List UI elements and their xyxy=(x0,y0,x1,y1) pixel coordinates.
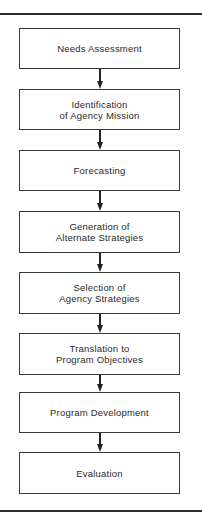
step-label: Forecasting xyxy=(74,165,126,176)
arrow-7 xyxy=(97,433,103,452)
step-label: Identification of Agency Mission xyxy=(60,99,140,121)
step-evaluation: Evaluation xyxy=(19,452,180,494)
step-selection-of-agency-strategies: Selection of Agency Strategies xyxy=(19,272,180,314)
step-identification-of-agency-mission: Identification of Agency Mission xyxy=(19,89,180,130)
step-needs-assessment: Needs Assessment xyxy=(19,28,180,69)
arrow-3 xyxy=(97,191,103,211)
step-label: Evaluation xyxy=(76,468,122,479)
step-generation-of-alternate-strategies: Generation of Alternate Strategies xyxy=(19,211,180,253)
step-program-development: Program Development xyxy=(19,392,180,433)
arrow-6 xyxy=(97,375,103,392)
step-label: Needs Assessment xyxy=(57,43,142,54)
arrow-4 xyxy=(97,253,103,272)
step-label: Program Development xyxy=(50,407,149,418)
step-label: Selection of Agency Strategies xyxy=(59,282,140,304)
arrow-5 xyxy=(97,314,103,333)
step-label: Generation of Alternate Strategies xyxy=(56,221,143,243)
bottom-rule xyxy=(0,510,202,512)
arrow-1 xyxy=(97,69,103,89)
top-rule xyxy=(0,13,202,15)
arrow-2 xyxy=(97,130,103,150)
step-forecasting: Forecasting xyxy=(19,150,180,191)
step-label: Translation to Program Objectives xyxy=(56,343,143,365)
step-translation-to-program-objectives: Translation to Program Objectives xyxy=(19,333,180,375)
